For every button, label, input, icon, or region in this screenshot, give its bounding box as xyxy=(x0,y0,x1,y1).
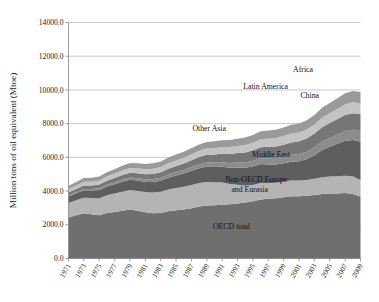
x-tick-label: 1989 xyxy=(196,262,211,279)
y-tick-label: 14000.0 xyxy=(39,18,64,27)
series-annotation-other-asia: Other Asia xyxy=(192,124,226,133)
x-tick-label: 1981 xyxy=(134,262,149,279)
y-tick-label: 6000.0 xyxy=(43,153,64,162)
y-axis-label: Million tons of oil equivalent (Mtoe) xyxy=(8,73,18,209)
series-annotation-non-oecd-europe: Non-OECD Europe xyxy=(225,175,287,184)
x-tick-label: 1971 xyxy=(58,262,73,279)
x-tick-label: 1991 xyxy=(211,262,226,279)
chart-container: 0.02000.04000.06000.08000.010000.012000.… xyxy=(0,0,379,302)
y-tick-label: 12000.0 xyxy=(39,52,64,61)
x-tick-label: 1997 xyxy=(257,262,272,279)
x-tick-label: 1973 xyxy=(73,262,88,279)
series-annotation-middle-east: Middle East xyxy=(252,150,291,159)
y-axis-tick-labels: 0.02000.04000.06000.08000.010000.012000.… xyxy=(39,18,69,263)
x-tick-label: 1983 xyxy=(150,262,165,279)
y-tick-label: 8000.0 xyxy=(43,119,64,128)
series-annotation-oecd-total: OECD total xyxy=(213,222,251,231)
x-tick-label: 1979 xyxy=(119,262,134,279)
x-tick-label: 2001 xyxy=(288,262,303,279)
series-annotation-and-eurasia: and Eurasia xyxy=(231,185,268,194)
x-axis-tick-labels: 1971197319751977197919811983198519871989… xyxy=(58,259,365,280)
x-tick-label: 2003 xyxy=(304,262,319,279)
x-tick-label: 2009 xyxy=(350,262,365,279)
series-annotation-latin-america: Latin America xyxy=(243,82,288,91)
stacked-area-chart: 0.02000.04000.06000.08000.010000.012000.… xyxy=(0,0,379,302)
x-tick-label: 1977 xyxy=(104,262,119,279)
x-tick-label: 1995 xyxy=(242,262,257,279)
y-tick-label: 0.0 xyxy=(54,254,64,263)
x-tick-label: 1985 xyxy=(165,262,180,279)
x-tick-label: 1993 xyxy=(227,262,242,279)
series-annotation-africa: Africa xyxy=(293,65,313,74)
x-tick-label: 2007 xyxy=(334,262,349,279)
y-tick-label: 10000.0 xyxy=(39,86,64,95)
x-tick-label: 1975 xyxy=(88,262,103,279)
x-tick-label: 1987 xyxy=(181,262,196,279)
series-annotation-china: China xyxy=(300,91,319,100)
x-tick-label: 2005 xyxy=(319,262,334,279)
area-series-layer xyxy=(69,91,361,259)
x-tick-label: 1999 xyxy=(273,262,288,279)
y-tick-label: 2000.0 xyxy=(43,220,64,229)
y-tick-label: 4000.0 xyxy=(43,187,64,196)
y-axis-title: Million tons of oil equivalent (Mtoe) xyxy=(8,73,18,209)
